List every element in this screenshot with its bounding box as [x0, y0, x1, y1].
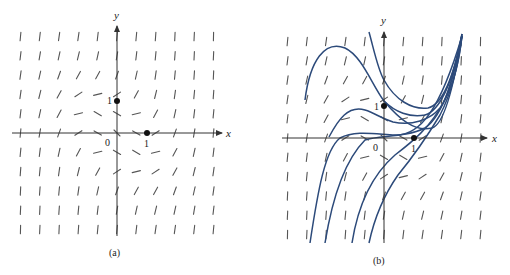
slope-segment [403, 37, 404, 45]
slope-segment [59, 167, 60, 175]
slope-segment [213, 206, 214, 214]
slope-segment [136, 225, 137, 233]
slope-segment [154, 110, 158, 117]
slope-segment [57, 110, 61, 117]
figure: x y 0 1 1 (a) x y 0 1 1 (b) [0, 0, 510, 275]
slope-segment [343, 76, 347, 83]
slope-segment [345, 37, 346, 45]
slope-segment [480, 95, 481, 103]
slope-segment [193, 148, 195, 156]
slope-segment [306, 153, 307, 161]
slope-segment [326, 172, 327, 180]
slope-segment [480, 172, 481, 180]
slope-segment [461, 115, 462, 123]
slope-segment [213, 225, 214, 233]
slope-segment [403, 57, 404, 65]
slope-segment [460, 192, 462, 200]
slope-segment [213, 90, 214, 98]
slope-segment [134, 91, 138, 98]
slope-segment [20, 167, 21, 175]
slope-segment [194, 206, 195, 214]
slope-segment [306, 37, 307, 45]
slope-segment [326, 37, 327, 45]
slope-segment [20, 110, 21, 118]
slope-segment [76, 149, 80, 156]
slope-segment [39, 71, 41, 79]
slope-segment [422, 230, 423, 238]
slope-segment [287, 153, 288, 161]
point-1-0-b [411, 135, 417, 141]
slope-segment [78, 32, 79, 40]
slope-segment [155, 225, 156, 233]
slope-segment [287, 37, 288, 45]
slope-segment [324, 115, 328, 122]
slope-segment [325, 76, 328, 84]
slope-segment [287, 57, 288, 65]
slope-segment [480, 192, 481, 200]
slope-segment [480, 115, 481, 123]
slope-segment [422, 95, 424, 103]
origin-label-b: 0 [373, 142, 378, 153]
slope-segment [402, 76, 404, 84]
slope-segment [343, 154, 347, 161]
slope-segment [155, 206, 157, 214]
slope-segment [422, 76, 423, 84]
origin-label-a: 0 [105, 137, 110, 148]
slope-segment [442, 57, 443, 65]
slope-segment [361, 98, 369, 100]
slope-segment [20, 32, 21, 40]
slope-segment [155, 90, 157, 98]
slope-segment [361, 117, 368, 121]
slope-segment [77, 52, 79, 60]
slope-segment [132, 113, 140, 115]
slope-segment [39, 148, 40, 156]
slope-segment [58, 148, 60, 156]
slope-segment [96, 71, 100, 78]
slope-segment [364, 37, 365, 45]
slope-segment [480, 211, 481, 219]
slope-segment [193, 187, 195, 195]
panel-b: x y 0 1 1 (b) [282, 14, 497, 267]
slope-segment [402, 211, 404, 219]
slope-segment [75, 92, 82, 97]
slope-segment [422, 211, 424, 219]
slope-segment [287, 95, 288, 103]
slope-segment [58, 52, 60, 60]
slope-segment [78, 187, 79, 195]
slope-segment [94, 151, 102, 153]
slope-segment [399, 176, 407, 178]
point-1-0-a [144, 130, 150, 136]
slope-segment [39, 167, 40, 175]
slope-segment [287, 115, 288, 123]
slope-segment [174, 110, 176, 118]
slope-segment [421, 192, 425, 199]
slope-segment [306, 172, 307, 180]
slope-segment [20, 148, 21, 156]
slope-segment [20, 52, 21, 60]
slope-segment [403, 230, 404, 238]
slope-segment [363, 173, 367, 180]
slope-segment [441, 192, 444, 200]
slope-segment [135, 206, 137, 214]
slope-segment [194, 90, 195, 98]
slope-segment [422, 57, 423, 65]
slope-segment [345, 192, 346, 200]
panel-label-a: (a) [109, 247, 120, 259]
slope-segment [422, 37, 423, 45]
slope-segment [480, 153, 481, 161]
slope-segment [461, 95, 462, 103]
y-tick-1-b: 1 [374, 101, 379, 112]
slope-segment [460, 153, 462, 161]
slope-segment [40, 187, 41, 195]
point-0-1-b [381, 103, 387, 109]
slope-segment [154, 187, 158, 194]
slope-segment [460, 173, 462, 181]
slope-segment [287, 76, 288, 84]
slope-segment [134, 187, 138, 194]
slope-segment [364, 230, 365, 238]
slope-segment [194, 225, 195, 233]
slope-segment [173, 168, 177, 175]
slope-segment [307, 192, 308, 200]
slope-segment [344, 173, 346, 181]
slope-segment [361, 156, 369, 158]
